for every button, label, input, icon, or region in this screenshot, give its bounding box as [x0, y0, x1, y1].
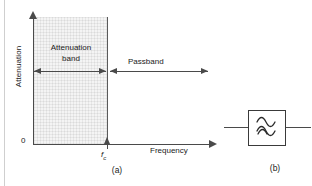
attenuation-band-label: Attenuation band: [36, 42, 106, 64]
panel-response-plot: Attenuation 0 Frequency fc Attenuation b…: [0, 0, 225, 186]
attenuation-band-arrow-line: [34, 71, 106, 72]
y-axis-arrowhead-icon: [29, 11, 37, 19]
origin-label: 0: [21, 136, 25, 145]
caption-panel-b: (b): [255, 163, 295, 173]
filter-waves-icon: [254, 114, 278, 140]
high-pass-filter-icon: [248, 110, 284, 144]
passband-label: Passband: [128, 57, 164, 66]
attenuation-band-label-line2: band: [62, 54, 80, 63]
y-axis-label: Attenuation: [14, 32, 23, 102]
cutoff-subscript: c: [103, 155, 106, 161]
caption-panel-a: (a): [97, 165, 137, 175]
passband-arrowhead-right-icon: [201, 68, 208, 74]
figure-container: Attenuation 0 Frequency fc Attenuation b…: [0, 0, 312, 186]
y-axis-line: [33, 17, 34, 145]
attenuation-band-label-line1: Attenuation: [51, 43, 91, 52]
input-lead-line: [224, 127, 249, 128]
x-axis-label: Frequency: [150, 146, 188, 155]
attenuation-band-shading: [34, 17, 107, 144]
cutoff-vertical-line: [107, 17, 108, 145]
cutoff-tick-arrowhead-icon: [104, 137, 110, 144]
panel-filter-symbol: (b): [225, 0, 312, 186]
x-axis-arrowhead-icon: [209, 140, 217, 148]
output-lead-line: [283, 127, 311, 128]
cutoff-frequency-label: fc: [101, 150, 106, 161]
x-axis-line: [33, 144, 211, 145]
passband-arrow-line: [110, 71, 208, 72]
attenuation-band-arrowhead-right-icon: [99, 68, 106, 74]
